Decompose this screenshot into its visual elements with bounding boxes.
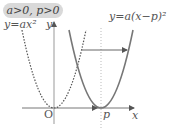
origin-label: O (44, 108, 53, 121)
shifted-curve-label: y=a(x−p)² (109, 10, 166, 23)
condition-badge: a>0, p>0 (3, 3, 63, 18)
parabola-translation-diagram: a>0, p>0 y=ax² y=a(x−p)² y x O p (0, 0, 170, 131)
x-axis-label: x (132, 109, 138, 122)
shift-p-label: p (103, 108, 110, 121)
shifted-parabola (69, 30, 133, 108)
original-curve-label: y=ax² (4, 18, 37, 31)
y-axis-label: y (46, 18, 52, 31)
